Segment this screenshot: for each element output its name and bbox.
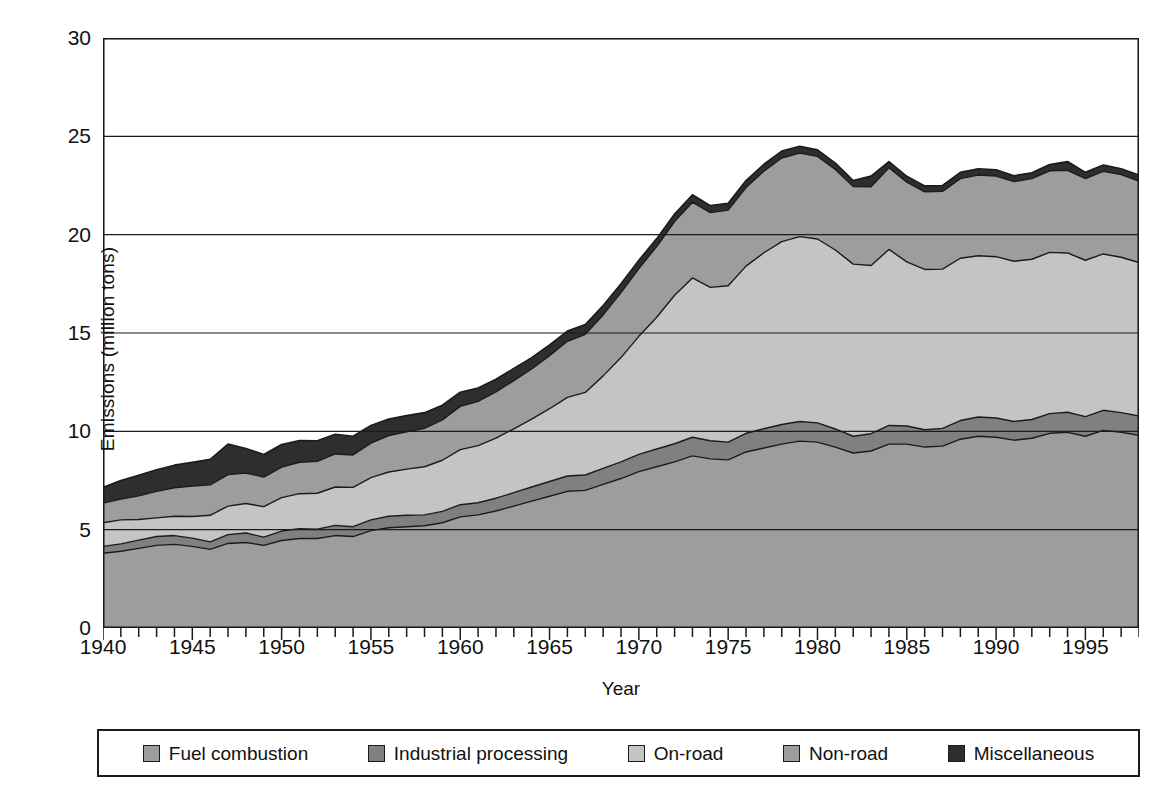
legend-swatch-icon xyxy=(143,745,160,762)
emissions-stacked-area-figure: 302520151050 Emissions (million tons) 19… xyxy=(0,0,1171,809)
y-tick-label-20: 20 xyxy=(45,224,91,245)
legend-item-miscellaneous[interactable]: Miscellaneous xyxy=(948,744,1094,763)
y-tick-label-15: 15 xyxy=(45,322,91,343)
legend-item-non-road[interactable]: Non-road xyxy=(783,744,888,763)
legend-swatch-icon xyxy=(368,745,385,762)
plot-area: 302520151050 Emissions (million tons) 19… xyxy=(103,38,1139,628)
y-axis-title: Emissions (million tons) xyxy=(97,89,119,609)
x-axis-ticks xyxy=(103,628,1139,644)
legend-item-on-road[interactable]: On-road xyxy=(628,744,724,763)
legend-swatch-icon xyxy=(783,745,800,762)
stacked-area-chart xyxy=(103,38,1139,628)
chart-legend: Fuel combustionIndustrial processingOn-r… xyxy=(97,729,1140,777)
legend-label: On-road xyxy=(654,744,724,763)
y-tick-label-25: 25 xyxy=(45,125,91,146)
legend-swatch-icon xyxy=(628,745,645,762)
legend-item-fuel-combustion[interactable]: Fuel combustion xyxy=(143,744,308,763)
legend-label: Non-road xyxy=(809,744,888,763)
legend-label: Industrial processing xyxy=(394,744,568,763)
y-tick-label-5: 5 xyxy=(45,519,91,540)
y-tick-label-30: 30 xyxy=(45,27,91,48)
y-tick-label-10: 10 xyxy=(45,420,91,441)
legend-label: Miscellaneous xyxy=(974,744,1094,763)
legend-label: Fuel combustion xyxy=(169,744,308,763)
x-axis-title: Year xyxy=(103,678,1139,700)
area-bands xyxy=(103,146,1139,628)
legend-item-industrial-processing[interactable]: Industrial processing xyxy=(368,744,568,763)
legend-swatch-icon xyxy=(948,745,965,762)
y-tick-labels: 302520151050 xyxy=(45,38,91,628)
